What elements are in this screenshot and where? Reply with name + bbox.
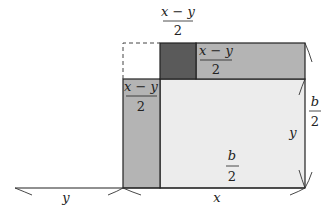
left-strip-denominator: 2	[137, 99, 145, 114]
center-numerator: b	[228, 148, 236, 163]
bottom-x-label: x	[213, 190, 221, 205]
bottom-y-label: y	[61, 190, 70, 205]
right-denominator: 2	[311, 114, 319, 129]
right-inner-y-label: y	[288, 125, 297, 140]
top-fraction-numerator: x − y	[161, 4, 195, 19]
right-fraction-label: b 2	[309, 94, 321, 129]
missing-corner-square	[123, 43, 160, 79]
center-denominator: 2	[228, 169, 236, 184]
top-strip-numerator: x − y	[199, 43, 233, 58]
dark-square	[160, 43, 196, 79]
top-fraction-label: x − y 2	[161, 4, 195, 38]
top-fraction-denominator: 2	[174, 23, 182, 38]
right-numerator: b	[311, 94, 319, 109]
completing-the-square-diagram: x − y 2 x − y 2 x − y 2 b 2 b 2 y y x	[0, 0, 324, 214]
left-strip-numerator: x − y	[124, 79, 158, 94]
left-strip	[123, 79, 160, 188]
top-strip-denominator: 2	[212, 62, 220, 77]
